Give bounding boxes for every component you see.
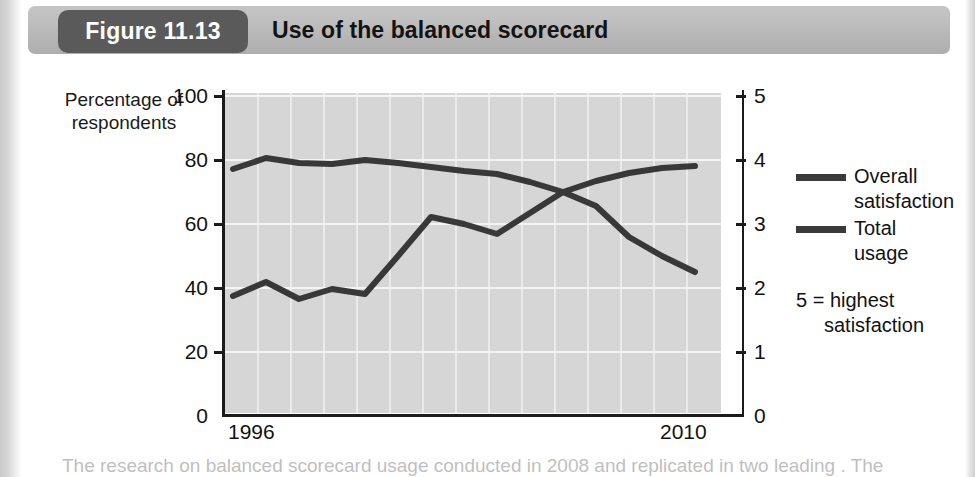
y-label-right-1: 1	[754, 340, 784, 364]
y-label-right-0: 0	[754, 404, 784, 428]
page-scan-edge-left	[0, 0, 22, 477]
y-label-left-0: 0	[162, 404, 208, 428]
y-label-right-3: 3	[754, 212, 784, 236]
legend-item-total-usage: Total usage	[796, 216, 946, 266]
y-tick-right-4	[736, 159, 746, 162]
x-axis-line	[222, 414, 744, 417]
chart-svg	[225, 93, 721, 413]
y-tick-left-60	[214, 223, 224, 226]
legend-note-line1: 5 = highest	[796, 289, 894, 311]
y-label-right-5: 5	[754, 84, 784, 108]
y-tick-left-80	[214, 159, 224, 162]
y-tick-left-100	[214, 95, 224, 98]
y-tick-right-3	[736, 223, 746, 226]
figure-title: Use of the balanced scorecard	[272, 6, 609, 54]
legend-item-overall-satisfaction: Overall satisfaction	[796, 164, 946, 214]
x-label-start: 1996	[228, 420, 275, 444]
legend-note: 5 = highest satisfaction	[796, 288, 966, 338]
y-label-left-60: 60	[162, 212, 208, 236]
y-axis-title-line2: respondents	[72, 112, 177, 133]
y-label-right-2: 2	[754, 276, 784, 300]
y-tick-right-2	[736, 287, 746, 290]
legend-note-line2: satisfaction	[796, 313, 966, 338]
y-label-left-80: 80	[162, 148, 208, 172]
grid-vertical	[258, 93, 687, 413]
y-axis-line-right	[742, 90, 744, 417]
legend-label-line2: satisfaction	[854, 190, 954, 212]
y-label-left-40: 40	[162, 276, 208, 300]
legend-label-overall-satisfaction: Overall satisfaction	[854, 164, 954, 214]
y-label-right-4: 4	[754, 148, 784, 172]
chart-legend: Overall satisfaction Total usage	[796, 164, 946, 268]
y-tick-right-1	[736, 351, 746, 354]
y-tick-left-40	[214, 287, 224, 290]
x-label-end: 2010	[660, 420, 707, 444]
chart-container: Percentage of respondents	[28, 60, 950, 445]
figure-caption: The research on balanced scorecard usage…	[62, 455, 922, 477]
plot-area	[225, 93, 721, 413]
legend-swatch-icon-overall-satisfaction	[796, 174, 846, 181]
legend-label-line1: Overall	[854, 165, 917, 187]
figure-header-bar: Figure 11.13 Use of the balanced scoreca…	[28, 6, 950, 54]
y-tick-left-20	[214, 351, 224, 354]
y-tick-right-5	[736, 95, 746, 98]
y-axis-line-left	[222, 90, 225, 417]
y-label-left-20: 20	[162, 340, 208, 364]
legend-label-total-usage: Total usage	[854, 216, 946, 266]
legend-swatch-icon-total-usage	[796, 226, 846, 233]
y-label-left-100: 100	[162, 84, 208, 108]
page-scan-edge-right	[965, 0, 975, 477]
figure-number-badge: Figure 11.13	[58, 10, 248, 53]
